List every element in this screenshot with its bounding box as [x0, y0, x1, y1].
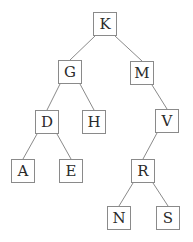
tree-edge-k-m [115, 36, 142, 61]
tree-edge-r-s [153, 183, 168, 206]
tree-node-n: N [107, 206, 131, 230]
tree-edge-d-a [23, 134, 37, 159]
tree-node-a: A [11, 159, 35, 183]
tree-node-k: K [93, 12, 117, 36]
tree-node-s: S [156, 206, 180, 230]
tree-edge-r-n [119, 183, 133, 206]
tree-edge-g-d [47, 84, 60, 110]
tree-edge-g-h [80, 84, 94, 110]
binary-tree-diagram: K G M D H V A E R N S [0, 0, 193, 242]
tree-node-r: R [131, 159, 155, 183]
tree-node-g: G [58, 60, 82, 84]
tree-node-e: E [59, 159, 83, 183]
tree-node-m: M [130, 61, 154, 85]
tree-edge-k-g [70, 36, 95, 60]
tree-edge-v-r [143, 133, 157, 159]
tree-node-v: V [155, 109, 179, 133]
tree-edge-m-v [152, 85, 167, 109]
tree-node-h: H [82, 110, 106, 134]
tree-edge-d-e [57, 134, 71, 159]
tree-node-d: D [35, 110, 59, 134]
